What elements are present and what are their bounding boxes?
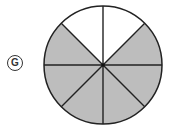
fraction-circle	[0, 0, 173, 131]
center-dot	[101, 63, 105, 67]
